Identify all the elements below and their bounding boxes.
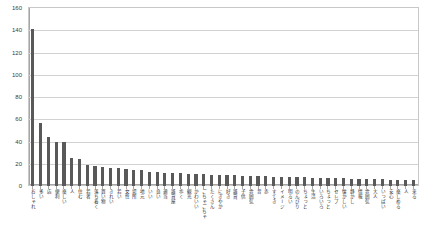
bar-slot	[246, 8, 254, 186]
bar-slot	[99, 8, 107, 186]
bar-slot	[37, 8, 45, 186]
x-axis-tick-label: 観光	[186, 189, 191, 199]
x-axis-tick-label: 好き	[225, 189, 230, 199]
x-axis-tick-label-slot: 観光	[184, 189, 192, 239]
x-axis-tick-label: 楽しい	[61, 189, 66, 204]
bar-chart: 020406080100120140160 おしゃれ多い店便利楽しい人住む若者落…	[0, 0, 426, 239]
x-axis-tick-label: 若い	[116, 189, 121, 199]
bar-slot	[76, 8, 84, 186]
x-axis-tick-label-slot: ごちゃごちゃ	[200, 189, 208, 239]
x-axis-tick-label: 雰囲気	[248, 189, 253, 204]
bar-slot	[231, 8, 239, 186]
x-axis-tick-label-slot: 静かし	[347, 189, 355, 239]
x-axis-tick-label-slot: 安心	[386, 189, 394, 239]
x-axis-tick-label-slot: 良い	[153, 189, 161, 239]
bar-slot	[145, 8, 153, 186]
bar	[47, 137, 50, 186]
x-axis-tick-label: 適当	[162, 189, 167, 199]
bar-slot	[239, 8, 247, 186]
bar	[179, 173, 182, 186]
bar-slot	[184, 8, 192, 186]
x-axis-tick-label: 楽しめる	[395, 189, 400, 209]
x-axis-tick-label-slot: いっぱい	[378, 189, 386, 239]
x-axis-tick-label-slot: 楽しめる	[394, 189, 402, 239]
x-axis-tick-label: のんびり	[294, 189, 299, 209]
bar	[70, 158, 73, 186]
bar	[249, 176, 252, 186]
bar	[39, 123, 42, 186]
bar-slot	[208, 8, 216, 186]
x-axis-tick-label: 来る	[411, 189, 416, 199]
x-axis-tick-label-slot: きれい	[107, 189, 115, 239]
bar-slot	[270, 8, 278, 186]
x-axis-tick-label-slot: 人	[68, 189, 76, 239]
bar-slot	[215, 8, 223, 186]
bar	[202, 174, 205, 186]
x-axis-tick-label-slot: 店	[45, 189, 53, 239]
x-axis-tick-label-slot: おしゃれ	[29, 189, 37, 239]
bar-slot	[169, 8, 177, 186]
bar-slot	[262, 8, 270, 186]
bar-slot	[153, 8, 161, 186]
x-axis-tick-label: たくさん	[209, 189, 214, 209]
x-axis-tick-label-slot: ちょっと	[301, 189, 309, 239]
x-axis-tick-label-slot: 適当	[161, 189, 169, 239]
bar	[326, 178, 329, 186]
bar	[303, 177, 306, 186]
bar	[373, 179, 376, 186]
x-axis-tick-label: 歩く	[178, 189, 183, 199]
bar-slot	[29, 8, 37, 186]
y-axis-tick-label: 20	[15, 161, 22, 167]
x-axis-tick-label-slot: 雰囲気	[363, 189, 371, 239]
x-axis-tick-label-slot: にぎやか	[215, 189, 223, 239]
x-axis-tick-label-slot: イメージ	[278, 189, 286, 239]
bar-slot	[347, 8, 355, 186]
y-axis-tick-label: 120	[12, 50, 22, 56]
bar-slot	[177, 8, 185, 186]
x-axis-tick-label-slot: セレブ	[332, 189, 340, 239]
bar-slot	[45, 8, 53, 186]
x-axis-tick-label-slot: 好き	[223, 189, 231, 239]
x-axis-tick-label: 静かし	[349, 189, 354, 204]
x-axis-tick-label-slot: いい	[145, 189, 153, 239]
bar	[334, 178, 337, 186]
x-axis-tick-label-slot: 雑貨屋	[169, 189, 177, 239]
x-axis-tick-label-slot: 便利	[52, 189, 60, 239]
bar	[342, 178, 345, 186]
bar	[117, 168, 120, 186]
x-axis-tick-label-slot: 赤	[262, 189, 270, 239]
bar	[357, 179, 360, 186]
bar-slot	[378, 8, 386, 186]
bar-slot	[324, 8, 332, 186]
x-axis-tick-label: 地元	[139, 189, 144, 199]
x-axis-tick-label-slot: 地元	[138, 189, 146, 239]
x-axis-tick-label: 女性	[124, 189, 129, 199]
x-axis-tick-label: すてき	[271, 189, 276, 204]
bar	[311, 178, 314, 186]
bar	[124, 169, 127, 186]
bar	[225, 175, 228, 186]
x-axis-tick-label-slot: 歩く	[177, 189, 185, 239]
x-axis-tick-labels: おしゃれ多い店便利楽しい人住む若者落ち着く買い物きれい若い女性場所地元いい良い適…	[29, 189, 418, 239]
bar	[148, 172, 151, 186]
x-axis-tick-label-slot: 女性	[122, 189, 130, 239]
bar	[194, 174, 197, 186]
x-axis-tick-label: 人	[403, 189, 408, 194]
bar-slot	[316, 8, 324, 186]
y-axis-tick-label: 160	[12, 5, 22, 11]
bar	[288, 177, 291, 186]
x-axis-tick-label: 住む	[77, 189, 82, 199]
bar	[156, 172, 159, 186]
bar-series	[29, 8, 418, 186]
x-axis-tick-label-slot: 大人	[371, 189, 379, 239]
bar	[241, 176, 244, 186]
x-axis-tick-label: 雰囲気	[364, 189, 369, 204]
x-axis-tick-label-slot: 来る	[410, 189, 418, 239]
x-axis-tick-label-slot: 若者	[83, 189, 91, 239]
x-axis-tick-label: 赤	[263, 189, 268, 194]
bar-slot	[192, 8, 200, 186]
x-axis-tick-label: 店	[46, 189, 51, 194]
bar	[233, 175, 236, 186]
bar-slot	[68, 8, 76, 186]
x-axis-tick-label: いっぱい	[380, 189, 385, 209]
